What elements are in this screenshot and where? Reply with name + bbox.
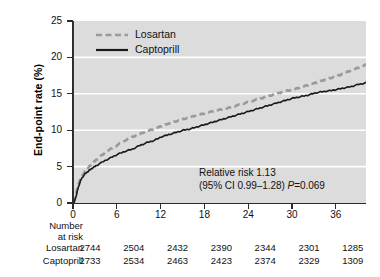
legend-label-losartan: Losartan: [135, 29, 176, 40]
risk-table-row: Captoprill2733253424632423237423291309: [0, 255, 380, 267]
risk-value: 2744: [70, 242, 110, 254]
risk-value: 1285: [333, 242, 373, 254]
gridlines: [74, 57, 366, 166]
x-tick-label: 0: [58, 209, 88, 220]
statistics-annotation: Relative risk 1.13 (95% CI 0.99–1.28) P=…: [199, 167, 325, 192]
risk-value: 2374: [245, 255, 285, 267]
risk-value: 2390: [201, 242, 241, 254]
y-tick-label: 0: [36, 198, 62, 208]
y-tick-label: 20: [36, 52, 62, 62]
kaplan-meier-figure: End-point rate (%) 0510152025 0612182430…: [0, 0, 380, 277]
relative-risk-text: Relative risk 1.13: [199, 167, 325, 180]
x-tick-label: 6: [102, 209, 132, 220]
risk-value: 2432: [158, 242, 198, 254]
ci-text: (95% CI 0.99–1.28): [199, 180, 288, 191]
risk-value: 2344: [245, 242, 285, 254]
risk-value: 2534: [114, 255, 154, 267]
dashed-line-swatch-icon: [96, 30, 128, 40]
risk-value: 2423: [201, 255, 241, 267]
x-tick-label: 24: [233, 209, 263, 220]
legend-item-losartan: Losartan: [96, 27, 179, 42]
legend-item-captoprill: Captoprill: [96, 42, 179, 57]
x-tick-label: 36: [321, 209, 351, 220]
risk-table-title-line1: Number: [0, 220, 83, 231]
x-tick-label: 12: [146, 209, 176, 220]
legend-label-captoprill: Captoprill: [135, 44, 179, 55]
legend: Losartan Captoprill: [96, 27, 179, 57]
risk-table-title: Number at risk: [0, 220, 83, 242]
y-tick-label: 15: [36, 89, 62, 99]
risk-value: 2504: [114, 242, 154, 254]
risk-value: 1309: [333, 255, 373, 267]
solid-line-swatch-icon: [96, 45, 128, 55]
x-tick-label: 30: [277, 209, 307, 220]
y-tick-label: 25: [36, 16, 62, 26]
risk-value: 2733: [70, 255, 110, 267]
y-tick-label: 10: [36, 125, 62, 135]
x-tick-label: 18: [189, 209, 219, 220]
p-value: =0.069: [294, 180, 325, 191]
risk-table-row: Losartan2744250424322390234423011285: [0, 242, 380, 254]
y-tick-label: 5: [36, 162, 62, 172]
risk-table-title-line2: at risk: [0, 231, 83, 242]
confidence-interval-text: (95% CI 0.99–1.28) P=0.069: [199, 180, 325, 193]
risk-value: 2329: [289, 255, 329, 267]
risk-value: 2301: [289, 242, 329, 254]
risk-value: 2463: [158, 255, 198, 267]
